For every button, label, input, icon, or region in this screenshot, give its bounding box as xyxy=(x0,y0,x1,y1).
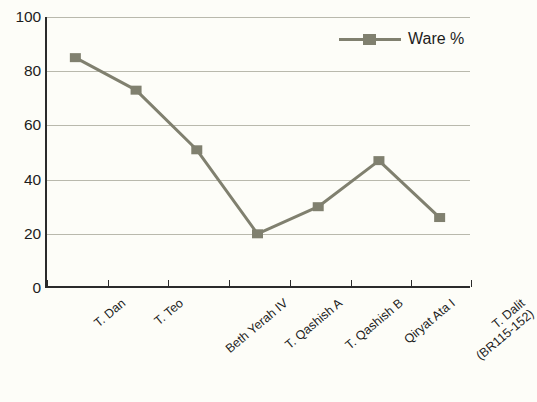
x-axis-labels: T. DanT. TeoBeth Yerah IVT. Qashish AT. … xyxy=(0,288,481,388)
x-tick-7 xyxy=(471,280,472,287)
y-tick-label-60: 60 xyxy=(1,117,41,133)
data-point-marker xyxy=(70,53,81,62)
x-tick-label-line: Qiryat Ata I xyxy=(401,296,458,347)
x-tick-label-line: T. Teo xyxy=(152,296,187,328)
x-tick-label-line: T. Qashish B xyxy=(343,296,407,353)
x-tick-label-6: T. Dalit(BR115-152) xyxy=(464,296,537,363)
y-tick-label-20: 20 xyxy=(1,226,41,242)
y-tick-label-40: 40 xyxy=(1,172,41,188)
data-point-marker xyxy=(131,86,142,95)
figure-caption xyxy=(0,386,481,402)
legend-line-sample xyxy=(339,32,401,46)
x-tick-label-line: Beth Yerah IV xyxy=(223,296,291,356)
x-tick-label-2: Beth Yerah IV xyxy=(223,296,291,356)
data-point-marker xyxy=(313,202,324,211)
x-tick-label-3: T. Qashish A xyxy=(282,296,345,352)
y-tick-label-100: 100 xyxy=(1,9,41,25)
data-point-marker xyxy=(191,145,202,154)
series-ware-percent xyxy=(45,17,470,288)
x-tick-label-line: T. Dan xyxy=(92,296,129,330)
legend: Ware % xyxy=(339,30,464,48)
data-point-marker xyxy=(252,229,263,238)
legend-label-ware-percent: Ware % xyxy=(408,30,464,48)
x-tick-label-1: T. Teo xyxy=(152,296,187,328)
y-axis-labels: 020406080100 xyxy=(0,17,41,288)
y-tick-label-80: 80 xyxy=(1,63,41,79)
x-tick-label-4: T. Qashish B xyxy=(343,296,407,353)
data-point-marker xyxy=(373,156,384,165)
x-tick-label-5: Qiryat Ata I xyxy=(401,296,458,347)
x-tick-label-line: T. Qashish A xyxy=(282,296,345,352)
x-tick-label-0: T. Dan xyxy=(92,296,129,330)
series-line-0 xyxy=(75,58,439,234)
legend-square-marker-icon xyxy=(363,34,376,45)
data-point-marker xyxy=(434,213,445,222)
